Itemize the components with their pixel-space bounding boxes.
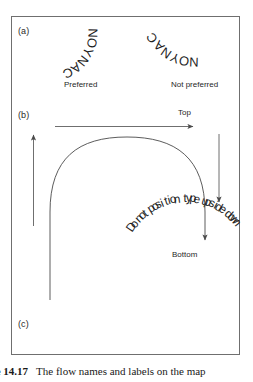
figure-14-17: (a) (b) (c) Preferred Not preferred Top … bbox=[0, 0, 253, 382]
panel-b-diagram bbox=[0, 0, 253, 382]
caption-number: re 14.17 bbox=[0, 365, 28, 377]
arch-flow-arrow bbox=[50, 137, 205, 300]
figure-caption: re 14.17The flow names and labels on the… bbox=[0, 364, 253, 382]
caption-text: The flow names and labels on the map bbox=[36, 365, 206, 377]
